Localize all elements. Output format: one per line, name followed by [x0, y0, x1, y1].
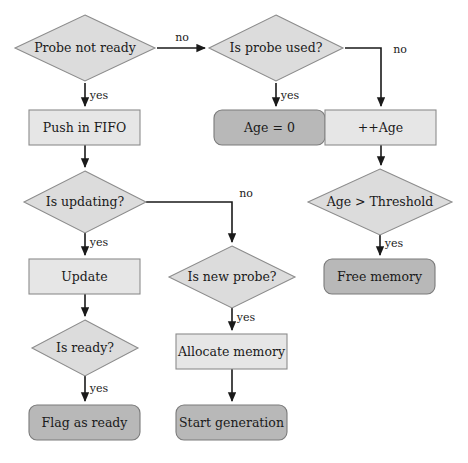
node-push_in_fifo[interactable]: Push in FIFO [29, 110, 140, 145]
node-label-flag_as_ready: Flag as ready [42, 415, 129, 430]
edge-label-probe-not-ready-yes: yes [89, 89, 109, 102]
node-label-is_new_probe: Is new probe? [187, 269, 276, 284]
node-label-update: Update [61, 269, 107, 284]
flowchart-svg: noyesyesnoyesnoyesyesyes Probe not ready… [0, 0, 468, 463]
edge-label-is-probe-used-yes: yes [280, 89, 300, 102]
node-label-age_increment: ++Age [358, 120, 403, 135]
node-age_increment[interactable]: ++Age [325, 110, 436, 145]
node-label-allocate_memory: Allocate memory [177, 344, 286, 359]
flowchart-canvas: noyesyesnoyesnoyesyesyes Probe not ready… [0, 0, 468, 463]
node-start_generation[interactable]: Start generation [176, 405, 287, 440]
node-label-probe_not_ready: Probe not ready [34, 40, 137, 55]
node-free_memory[interactable]: Free memory [324, 259, 435, 294]
node-age_zero[interactable]: Age = 0 [214, 110, 325, 145]
edge-label-is-probe-used-no: no [393, 43, 407, 56]
node-label-is_updating: Is updating? [46, 194, 125, 209]
node-update[interactable]: Update [29, 259, 140, 294]
node-label-is_probe_used: Is probe used? [230, 40, 323, 55]
edge-label-is-updating-yes: yes [89, 236, 109, 249]
node-label-is_ready: Is ready? [56, 340, 114, 355]
edge-label-is-new-probe-yes: yes [236, 311, 256, 324]
node-probe_not_ready[interactable]: Probe not ready [15, 15, 155, 81]
node-is_new_probe[interactable]: Is new probe? [169, 246, 295, 308]
node-label-age_gt_threshold: Age > Threshold [326, 194, 434, 209]
edge-label-threshold-yes: yes [384, 237, 404, 250]
node-is_ready[interactable]: Is ready? [32, 320, 138, 376]
nodes-layer: Probe not readyIs probe used?Push in FIF… [15, 15, 452, 440]
edge-label-is-updating-no: no [239, 187, 253, 200]
edge-is-probe-used-no [345, 48, 381, 106]
node-age_gt_threshold[interactable]: Age > Threshold [308, 169, 452, 235]
node-is_probe_used[interactable]: Is probe used? [209, 15, 343, 81]
node-flag_as_ready[interactable]: Flag as ready [29, 405, 140, 440]
edge-label-is-ready-yes: yes [89, 382, 109, 395]
node-label-push_in_fifo: Push in FIFO [43, 120, 126, 135]
node-label-free_memory: Free memory [337, 269, 423, 284]
node-is_updating[interactable]: Is updating? [24, 171, 146, 233]
edge-label-probe-not-ready-no: no [175, 31, 189, 44]
node-label-start_generation: Start generation [179, 415, 284, 430]
node-label-age_zero: Age = 0 [243, 120, 295, 135]
node-allocate_memory[interactable]: Allocate memory [176, 334, 287, 369]
edge-is-updating-no [146, 202, 232, 242]
